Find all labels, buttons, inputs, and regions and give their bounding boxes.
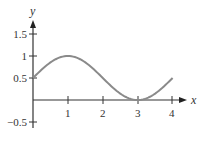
- x-axis-label: x: [190, 93, 197, 107]
- x-axis-arrow-icon: [179, 97, 187, 103]
- sine-curve: [33, 56, 173, 100]
- y-tick-label-neg-0.5: −0.5: [7, 116, 27, 128]
- y-axis-arrow-icon: [30, 20, 36, 28]
- x-tick-label-2: 2: [100, 107, 106, 119]
- x-tick-label-4: 4: [169, 107, 175, 119]
- y-tick-label-0.5: 0.5: [13, 72, 27, 84]
- y-axis-label: y: [29, 4, 36, 18]
- x-tick-label-3: 3: [135, 107, 141, 119]
- y-tick-label-1.5: 1.5: [13, 28, 27, 40]
- function-graph: y x 1 2 3 4 1.5 1 0.5 −0.5: [0, 0, 205, 146]
- y-tick-label-1: 1: [22, 50, 28, 62]
- x-tick-label-1: 1: [65, 107, 71, 119]
